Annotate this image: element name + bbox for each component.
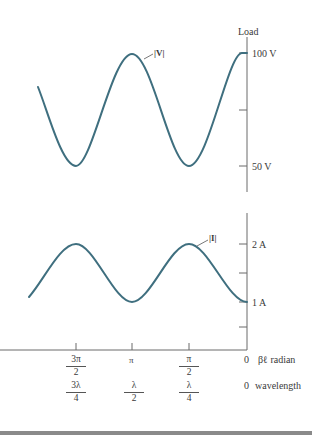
x-label-pi: π [129, 356, 134, 365]
load-label: Load [238, 27, 259, 37]
x-label-wavelength-zero: 0 [244, 381, 249, 391]
current-magnitude-curve [29, 244, 247, 302]
voltage-magnitude-curve [38, 53, 247, 166]
x-unit-radian: βℓ radian [258, 355, 295, 365]
voltage-curve-label: |V| [154, 49, 164, 58]
current-label-leader [197, 240, 208, 246]
current-tick-label-2: 2 A [252, 240, 266, 250]
voltage-tick-label-50: 50 V [252, 162, 272, 172]
current-tick-label-1: 1 A [252, 298, 266, 308]
x-label-radian-zero: 0 [244, 355, 249, 365]
x-label-3pi-over-2: 3π 2 [66, 355, 86, 377]
x-label-lambda-over-4: λ 4 [179, 381, 199, 403]
x-label-pi-over-2: π 2 [179, 355, 199, 377]
page-bottom-rule [0, 431, 312, 435]
standing-wave-diagram [0, 0, 312, 435]
x-label-3lambda-over-4: 3λ 4 [66, 381, 86, 403]
x-label-lambda-over-2: λ 2 [124, 381, 144, 403]
voltage-tick-label-100: 100 V [252, 49, 277, 59]
current-curve-label: |I| [209, 234, 216, 243]
voltage-label-leader [144, 54, 153, 59]
x-unit-wavelength: wavelength [255, 381, 301, 391]
